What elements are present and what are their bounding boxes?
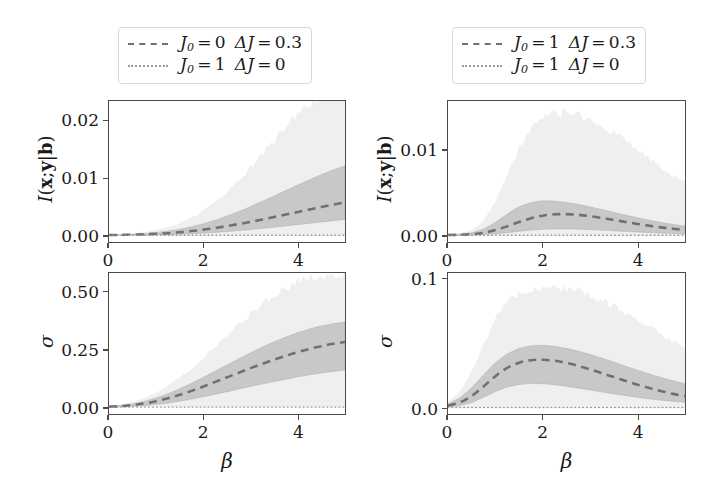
y-tick-mark <box>442 149 447 150</box>
legend-right-column: J0=1ΔJ=0.3 J0=1ΔJ=0 <box>452 27 646 84</box>
x-tick-label: 0 <box>442 252 453 269</box>
y-tick-label: 0.00 <box>61 400 99 417</box>
figure-root: J0=0ΔJ=0.3 J0=1ΔJ=0 J0=1ΔJ=0.3 J0=1ΔJ=0 … <box>0 0 713 493</box>
x-tick-mark <box>107 243 108 248</box>
plot-panel-top-left <box>108 100 346 243</box>
x-tick-label: 2 <box>198 252 209 269</box>
legend-entry-label: J0=1ΔJ=0 <box>514 56 620 75</box>
y-tick-label: 0.25 <box>61 341 99 358</box>
y-tick-label: 0.0 <box>411 400 438 417</box>
legend-entry-label: J0=1ΔJ=0.3 <box>514 34 636 53</box>
x-tick-label: 0 <box>442 424 453 441</box>
plot-panel-bottom-right <box>447 272 686 415</box>
x-tick-mark <box>638 415 639 420</box>
x-tick-mark <box>298 415 299 420</box>
plot-canvas-top-left <box>109 101 345 242</box>
y-tick-mark <box>103 349 108 350</box>
y-tick-mark <box>103 407 108 408</box>
y-tick-label: 0.01 <box>61 170 99 187</box>
x-tick-mark <box>446 415 447 420</box>
y-tick-mark <box>442 235 447 236</box>
x-axis-title: β <box>547 451 587 471</box>
x-tick-mark <box>203 415 204 420</box>
x-tick-label: 2 <box>198 424 209 441</box>
x-tick-label: 2 <box>537 252 548 269</box>
x-tick-label: 0 <box>103 252 114 269</box>
x-tick-label: 0 <box>103 424 114 441</box>
x-tick-mark <box>542 243 543 248</box>
y-axis-title: I(x;y|b) <box>37 114 55 224</box>
y-tick-mark <box>103 291 108 292</box>
x-tick-mark <box>203 243 204 248</box>
x-tick-label: 4 <box>293 424 304 441</box>
plot-panel-bottom-left <box>108 272 346 415</box>
x-tick-label: 4 <box>633 252 644 269</box>
y-tick-label: 0.00 <box>400 228 438 245</box>
y-axis-title: σ <box>37 321 56 361</box>
legend-entry: J0=0ΔJ=0.3 <box>128 33 302 55</box>
legend-entry: J0=1ΔJ=0.3 <box>462 33 636 55</box>
plot-canvas-bottom-right <box>448 273 685 414</box>
x-tick-mark <box>638 243 639 248</box>
x-tick-mark <box>542 415 543 420</box>
x-tick-mark <box>446 243 447 248</box>
x-axis-title: β <box>207 451 247 471</box>
y-tick-label: 0.01 <box>400 141 438 158</box>
y-tick-label: 0.00 <box>61 228 99 245</box>
plot-panel-top-right <box>447 100 686 243</box>
y-tick-label: 0.02 <box>61 112 99 129</box>
y-tick-mark <box>103 120 108 121</box>
legend-entry-label: J0=0ΔJ=0.3 <box>180 34 302 53</box>
y-tick-mark <box>442 408 447 409</box>
legend-entry: J0=1ΔJ=0 <box>128 55 302 77</box>
legend-entry: J0=1ΔJ=0 <box>462 55 636 77</box>
y-tick-label: 0.50 <box>61 283 99 300</box>
plot-canvas-bottom-left <box>109 273 345 414</box>
x-tick-label: 4 <box>293 252 304 269</box>
legend-entry-label: J0=1ΔJ=0 <box>180 56 286 75</box>
legend-left-column: J0=0ΔJ=0.3 J0=1ΔJ=0 <box>118 27 312 84</box>
y-axis-title: I(x;y|b) <box>376 114 394 224</box>
plot-canvas-top-right <box>448 101 685 242</box>
x-tick-mark <box>107 415 108 420</box>
y-tick-label: 0.1 <box>411 270 438 287</box>
y-axis-title: σ <box>376 321 395 361</box>
y-tick-mark <box>103 178 108 179</box>
x-tick-mark <box>298 243 299 248</box>
y-tick-mark <box>442 278 447 279</box>
x-tick-label: 4 <box>633 424 644 441</box>
y-tick-mark <box>103 235 108 236</box>
x-tick-label: 2 <box>537 424 548 441</box>
